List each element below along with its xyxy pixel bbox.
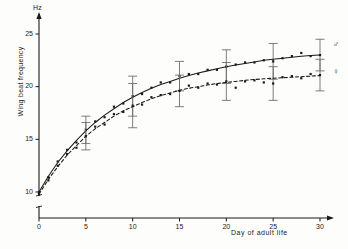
- data-point-male: [207, 69, 209, 71]
- y-axis-unit-label: Hz: [33, 4, 42, 11]
- data-point-male: [272, 60, 274, 62]
- data-point-female: [141, 103, 143, 105]
- data-point-male: [253, 61, 255, 63]
- data-series-layer: [38, 39, 325, 195]
- data-point-female: [244, 80, 246, 82]
- data-point-male: [122, 102, 124, 104]
- series-label-male: ♂: [333, 41, 339, 49]
- x-axis-title: Day of adult life: [231, 229, 288, 236]
- y-tick-label-25: 25: [21, 30, 33, 37]
- data-point-female: [122, 111, 124, 113]
- data-point-male: [281, 57, 283, 59]
- data-point-female: [113, 113, 115, 115]
- data-point-female: [253, 79, 255, 81]
- data-point-female: [310, 73, 312, 75]
- data-point-female: [38, 193, 40, 195]
- data-point-male: [197, 73, 199, 75]
- data-point-female: [197, 87, 199, 89]
- data-point-female: [66, 153, 68, 155]
- data-point-male: [66, 149, 68, 151]
- data-point-male: [319, 54, 321, 56]
- y-tick-label-15: 15: [21, 135, 33, 142]
- data-point-female: [319, 74, 321, 76]
- data-point-female: [47, 179, 49, 181]
- data-point-female: [132, 105, 134, 107]
- data-point-female: [263, 81, 265, 83]
- x-tick-label-20: 20: [218, 223, 234, 230]
- data-point-female: [216, 83, 218, 85]
- data-point-male: [141, 93, 143, 95]
- data-point-male: [310, 55, 312, 57]
- data-point-female: [235, 87, 237, 89]
- data-point-female: [103, 123, 105, 125]
- x-axis-arrow-icon: [327, 215, 334, 220]
- data-point-male: [150, 87, 152, 89]
- data-point-female: [281, 76, 283, 78]
- data-point-male: [235, 63, 237, 65]
- data-point-male: [216, 69, 218, 71]
- wing-beat-frequency-figure: Hz Wing beat frequency Day of adult life…: [0, 0, 348, 249]
- x-tick-label-30: 30: [312, 223, 328, 230]
- data-point-female: [178, 90, 180, 92]
- data-point-female: [75, 147, 77, 149]
- data-point-female: [188, 85, 190, 87]
- data-point-female: [94, 126, 96, 128]
- data-point-male: [113, 106, 115, 108]
- x-tick-label-25: 25: [265, 223, 281, 230]
- data-point-male: [169, 81, 171, 83]
- series-female: [38, 59, 325, 195]
- y-tick-label-20: 20: [21, 82, 33, 89]
- data-point-male: [94, 120, 96, 122]
- data-point-male: [103, 116, 105, 118]
- x-tick-label-15: 15: [172, 223, 188, 230]
- data-point-male: [57, 160, 59, 162]
- data-point-female: [300, 77, 302, 79]
- series-male: [38, 39, 325, 193]
- chart-plot-area: [0, 0, 348, 249]
- data-point-female: [150, 96, 152, 98]
- data-point-female: [169, 93, 171, 95]
- data-point-male: [75, 141, 77, 143]
- data-point-female: [57, 165, 59, 167]
- y-tick-label-10: 10: [21, 188, 33, 195]
- x-tick-label-5: 5: [78, 223, 94, 230]
- x-tick-label-0: 0: [31, 223, 47, 230]
- x-tick-label-10: 10: [125, 223, 141, 230]
- series-label-female: ♀: [333, 68, 339, 76]
- data-point-male: [188, 73, 190, 75]
- data-point-female: [291, 75, 293, 77]
- data-point-female: [225, 80, 227, 82]
- data-point-female: [207, 82, 209, 84]
- data-point-male: [291, 55, 293, 57]
- data-point-male: [160, 81, 162, 83]
- data-point-male: [263, 59, 265, 61]
- data-point-male: [300, 52, 302, 54]
- data-point-male: [244, 61, 246, 63]
- data-point-female: [160, 94, 162, 96]
- y-axis-arrow-icon: [36, 12, 41, 19]
- axes-layer: [36, 12, 335, 222]
- data-point-female: [272, 82, 274, 84]
- data-point-female: [85, 135, 87, 137]
